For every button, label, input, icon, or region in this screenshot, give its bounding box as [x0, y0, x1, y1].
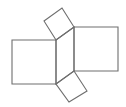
bottom-square	[56, 71, 87, 102]
center-parallelogram	[56, 27, 74, 84]
top-square	[44, 8, 74, 40]
right-square	[74, 27, 118, 71]
left-square	[12, 40, 56, 84]
diagram-svg	[0, 0, 126, 107]
diagram-canvas	[0, 0, 126, 107]
